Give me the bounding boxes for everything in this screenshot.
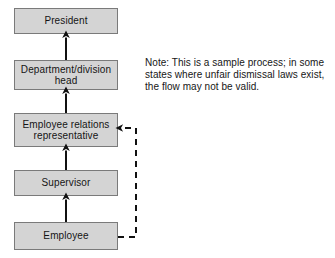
note-line-3: the flow may not be valid.	[145, 81, 329, 93]
node-employee-label: Employee	[18, 230, 114, 242]
node-employee-relations-representative-label: Employee relations representative	[18, 119, 114, 142]
flowchart-diagram: President Department/division head Emplo…	[0, 0, 335, 258]
note-text: Note: This is a sample process; in some …	[145, 57, 329, 94]
node-department-division-head-label: Department/division head	[18, 64, 114, 87]
note-line-1: Note: This is a sample process; in some	[145, 57, 329, 69]
node-president[interactable]: President	[14, 8, 118, 34]
node-president-label: President	[18, 15, 114, 27]
edge-employee-to-er-rep-direct	[118, 128, 136, 237]
node-supervisor[interactable]: Supervisor	[14, 170, 118, 196]
node-employee[interactable]: Employee	[14, 222, 118, 250]
note-line-2: states where unfair dismissal laws exist…	[145, 69, 329, 81]
node-department-division-head[interactable]: Department/division head	[14, 60, 118, 90]
node-supervisor-label: Supervisor	[18, 177, 114, 189]
node-employee-relations-representative[interactable]: Employee relations representative	[14, 113, 118, 147]
